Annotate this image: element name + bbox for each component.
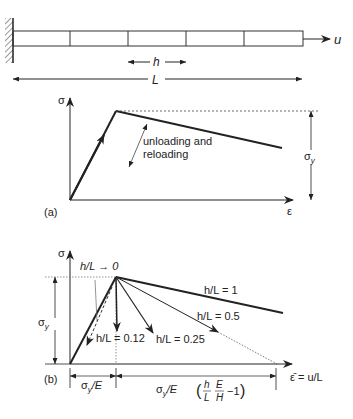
graph-b: σ ε̄ = u/L h/L → 0 h/L = 0.12 h/L = 0.25…	[38, 247, 323, 403]
svg-text:H: H	[216, 392, 224, 403]
sigma-axis-label-b: σ	[58, 247, 65, 259]
dim-softening-strain: σy/E	[156, 383, 178, 398]
bar-figure: u h L	[5, 18, 341, 87]
annotation-unloading: unloading and	[143, 135, 212, 147]
graph-a: σ ε unloading and reloading σy (a)	[44, 94, 318, 218]
bar-length-label: L	[152, 73, 159, 87]
dim-elastic-strain: σy/E	[81, 379, 103, 394]
curve-label-h-l-1: h/L = 1	[204, 284, 238, 296]
svg-text:h: h	[204, 379, 210, 390]
svg-text:L: L	[204, 392, 210, 403]
annotation-reloading: reloading	[143, 148, 188, 160]
bar	[13, 31, 303, 46]
curve-label-h-l-05: h/L = 0.5	[197, 310, 240, 322]
svg-text:−1: −1	[227, 385, 240, 397]
sigma-axis-label: σ	[58, 94, 65, 106]
yield-stress-label-b: σy	[38, 316, 50, 331]
curve-label-h-l-025: h/L = 0.25	[156, 333, 205, 345]
yield-stress-label-a: σy	[304, 150, 316, 165]
svg-text:(: (	[196, 382, 202, 399]
panel-label-b: (b)	[44, 373, 57, 385]
svg-text:): )	[240, 382, 245, 399]
load-label: u	[334, 32, 341, 47]
bar-and-stress-strain-diagram: u h L σ ε unloading and reloading σy (a)…	[0, 0, 353, 419]
epsilon-bar-axis-label: ε̄ = u/L	[290, 371, 323, 383]
curve-label-h-l-012: h/L = 0.12	[96, 332, 145, 344]
epsilon-axis-label: ε	[287, 205, 292, 217]
panel-label-a: (a)	[44, 206, 57, 218]
curve-label-h-l-0: h/L → 0	[80, 260, 119, 272]
wall-support	[5, 18, 13, 63]
element-length-label: h	[153, 55, 160, 69]
svg-text:E: E	[216, 379, 223, 390]
